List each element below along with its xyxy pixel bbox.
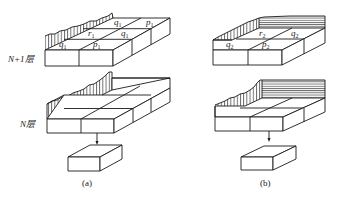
layer-label-lower: N层 xyxy=(19,119,36,129)
panel-b-lower-layer xyxy=(215,80,325,131)
back-boundary-hatch xyxy=(259,16,325,28)
panel-a-upper-layer: q1 p1 r1 q1 q1 p1 xyxy=(45,13,170,66)
panel-a-lower-layer xyxy=(47,72,170,133)
back-boundary-hatch xyxy=(262,80,325,98)
down-arrow xyxy=(268,131,271,142)
front-face xyxy=(47,119,114,133)
layer-label-upper: N+1层 xyxy=(7,54,35,64)
down-arrow xyxy=(96,133,99,145)
panel-b-single-block xyxy=(241,146,296,170)
layer-label-lower-text: N层 xyxy=(19,119,36,129)
caption-a: (a) xyxy=(82,178,92,188)
panel-a-single-block xyxy=(68,145,122,171)
layer-label-upper-text: N+1层 xyxy=(7,54,35,64)
arrow-head-icon xyxy=(268,138,271,142)
arrow-head-icon xyxy=(96,141,99,145)
panel-b: q2 p2 r2 q2 xyxy=(213,16,325,188)
layered-grid-diagram: q1 p1 r1 q1 q1 p1 xyxy=(0,0,338,198)
panel-b-upper-layer: q2 p2 r2 q2 xyxy=(213,16,325,65)
caption-b: (b) xyxy=(260,178,271,188)
panel-a: q1 p1 r1 q1 q1 p1 xyxy=(45,13,170,188)
